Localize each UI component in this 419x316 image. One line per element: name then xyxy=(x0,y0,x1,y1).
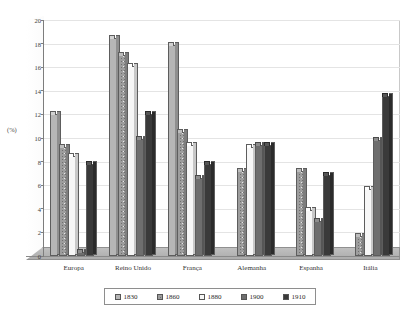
bar-1880-espanha xyxy=(305,210,313,256)
bar-1860-europa xyxy=(59,147,67,256)
bar-top-face xyxy=(50,111,56,115)
legend-swatch-1900 xyxy=(241,294,247,300)
bar-top-face xyxy=(323,172,329,176)
bar-top-face xyxy=(305,207,311,211)
bar-top-face xyxy=(314,218,320,222)
legend-item-1830[interactable]: 1830 xyxy=(115,293,138,301)
bar-1860-itália xyxy=(355,236,363,256)
bar-side-face xyxy=(75,153,79,255)
bar-side-face xyxy=(330,172,334,255)
legend-item-1910[interactable]: 1910 xyxy=(283,293,306,301)
bar-1910-reino-unido xyxy=(145,114,153,256)
bar-side-face xyxy=(152,111,156,255)
bar-1910-europa xyxy=(86,164,94,256)
bar-1830-frança xyxy=(168,45,176,256)
bar-1880-frança xyxy=(186,145,194,256)
bars-layer xyxy=(26,16,404,264)
bar-top-face xyxy=(373,137,379,141)
bar-1900-reino-unido xyxy=(136,139,144,256)
category-label-europa: Europa xyxy=(64,264,84,272)
bar-1910-frança xyxy=(204,164,212,256)
legend-item-1860[interactable]: 1860 xyxy=(157,293,180,301)
bar-top-face xyxy=(68,153,74,157)
bar-1910-espanha xyxy=(323,175,331,256)
legend-swatch-1830 xyxy=(115,294,121,300)
bar-1860-frança xyxy=(177,132,185,256)
bar-top-face xyxy=(59,144,65,148)
y-axis-label: (%) xyxy=(7,126,17,133)
bar-chart: (%) 02468101214161820 EuropaReino UnidoF… xyxy=(0,0,419,316)
bar-1910-itália xyxy=(382,96,390,256)
legend: 18301860188019001910 xyxy=(104,288,316,305)
bar-side-face xyxy=(389,93,393,255)
bar-1860-alemanha xyxy=(237,171,245,256)
legend-label: 1910 xyxy=(292,293,306,301)
legend-item-1900[interactable]: 1900 xyxy=(241,293,264,301)
legend-label: 1900 xyxy=(250,293,264,301)
bar-top-face xyxy=(186,142,192,146)
legend-label: 1860 xyxy=(166,293,180,301)
legend-swatch-1860 xyxy=(157,294,163,300)
bar-side-face xyxy=(271,142,275,255)
bar-1910-alemanha xyxy=(264,145,272,256)
bar-1880-itália xyxy=(364,189,372,256)
bar-1900-alemanha xyxy=(255,145,263,256)
bar-1880-alemanha xyxy=(246,147,254,256)
category-label-frança: França xyxy=(183,264,202,272)
bar-top-face xyxy=(195,175,201,179)
category-label-espanha: Espanha xyxy=(299,264,323,272)
category-label-itália: Itália xyxy=(363,264,377,272)
bar-side-face xyxy=(93,161,97,255)
chart-title xyxy=(0,0,419,1)
bar-top-face xyxy=(364,186,370,190)
bar-top-face xyxy=(168,42,174,46)
bar-1830-europa xyxy=(50,114,58,256)
category-label-alemanha: Alemanha xyxy=(237,264,266,272)
bar-side-face xyxy=(211,161,215,255)
bar-top-face xyxy=(177,129,183,133)
bar-1900-europa xyxy=(77,252,85,256)
bar-top-face xyxy=(255,142,261,146)
bar-1900-itália xyxy=(373,140,381,256)
bar-top-face xyxy=(264,142,270,146)
bar-1880-reino-unido xyxy=(127,66,135,256)
bar-top-face xyxy=(77,249,83,253)
bar-top-face xyxy=(237,168,243,172)
legend-swatch-1910 xyxy=(283,294,289,300)
bar-top-face xyxy=(382,93,388,97)
bar-1880-europa xyxy=(68,156,76,256)
bar-top-face xyxy=(355,233,361,237)
bar-1900-frança xyxy=(195,178,203,256)
bar-top-face xyxy=(86,161,92,165)
legend-label: 1830 xyxy=(124,293,138,301)
bar-1860-reino-unido xyxy=(118,55,126,256)
bar-1860-espanha xyxy=(296,171,304,256)
bar-top-face xyxy=(136,136,142,140)
legend-swatch-1880 xyxy=(199,294,205,300)
plot-area: 02468101214161820 xyxy=(26,16,404,264)
bar-1900-espanha xyxy=(314,221,322,256)
bar-top-face xyxy=(109,35,115,39)
bar-top-face xyxy=(204,161,210,165)
legend-item-1880[interactable]: 1880 xyxy=(199,293,222,301)
bar-top-face xyxy=(246,144,252,148)
bar-top-face xyxy=(118,52,124,56)
legend-label: 1880 xyxy=(208,293,222,301)
category-label-reino-unido: Reino Unido xyxy=(115,264,151,272)
bar-top-face xyxy=(296,168,302,172)
bar-top-face xyxy=(127,63,133,67)
bar-top-face xyxy=(145,111,151,115)
bar-1830-reino-unido xyxy=(109,38,117,256)
